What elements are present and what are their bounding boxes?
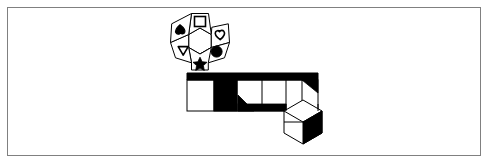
diagram-svg [0, 0, 490, 165]
band-bottom-bar [238, 104, 286, 111]
screenshot-canvas [0, 0, 490, 165]
geometric-diagram [0, 0, 490, 165]
band-cell-2 [214, 80, 237, 111]
band-top-bar [187, 73, 318, 80]
hexagon-rosette [171, 14, 230, 71]
circle-icon [211, 46, 222, 57]
square-icon [195, 17, 206, 27]
